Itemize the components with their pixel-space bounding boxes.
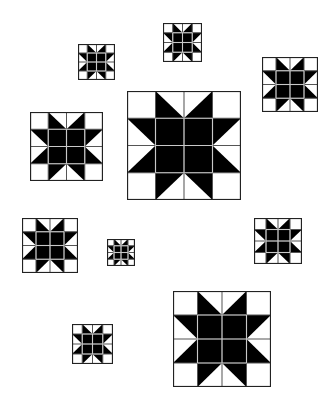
block-top-center-small <box>163 23 202 62</box>
block-bottom-large <box>173 291 271 387</box>
block-lower-right <box>254 218 302 264</box>
sawtooth-star-icon <box>30 112 103 181</box>
block-mid-left <box>30 112 103 181</box>
sawtooth-star-icon <box>163 23 202 62</box>
sawtooth-star-icon <box>107 239 135 266</box>
sawtooth-star-icon <box>22 218 78 273</box>
block-tiny <box>107 239 135 266</box>
block-center-large <box>127 91 241 200</box>
block-lower-left <box>22 218 78 273</box>
sawtooth-star-icon <box>173 291 271 387</box>
sawtooth-star-icon <box>78 44 115 80</box>
block-bottom-left-small <box>72 324 113 364</box>
sawtooth-star-icon <box>254 218 302 264</box>
sawtooth-star-icon <box>262 57 318 112</box>
sawtooth-star-icon <box>127 91 241 200</box>
sawtooth-star-icon <box>72 324 113 364</box>
block-top-left-small <box>78 44 115 80</box>
quilt-blocks-canvas <box>0 0 328 414</box>
block-top-right <box>262 57 318 112</box>
